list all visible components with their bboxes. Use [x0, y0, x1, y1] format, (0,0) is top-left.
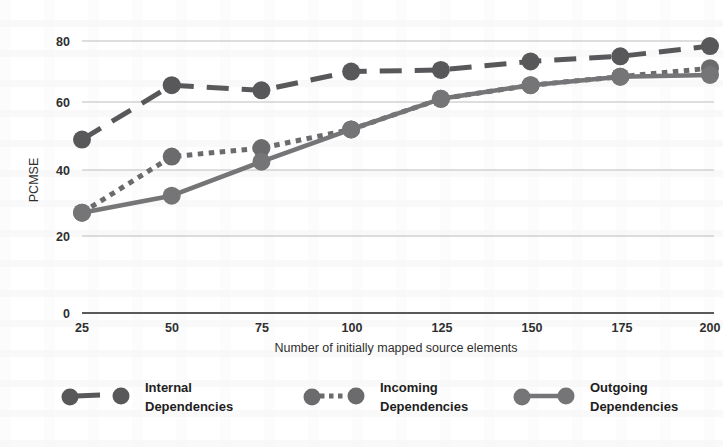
legend-label-outgoing-line1: Outgoing [590, 380, 648, 395]
y-tick-0: 0 [63, 307, 70, 321]
data-point[interactable] [432, 61, 450, 79]
data-point[interactable] [342, 120, 360, 138]
legend-label-outgoing-line2: Dependencies [590, 399, 678, 414]
y-axis-tick-labels: 80 60 40 20 0 [56, 35, 70, 321]
legend-label-incoming-line1: Incoming [380, 380, 438, 395]
data-point[interactable] [701, 37, 719, 55]
y-tick-60: 60 [56, 96, 70, 110]
data-point[interactable] [252, 153, 270, 171]
x-axis-title: Number of initially mapped source elemen… [274, 341, 517, 355]
y-tick-20: 20 [56, 230, 70, 244]
x-tick-25: 25 [75, 321, 89, 335]
data-series-layer [73, 37, 719, 222]
legend-swatch-dashed [62, 388, 130, 406]
x-tick-150: 150 [522, 321, 543, 335]
x-tick-200: 200 [700, 321, 721, 335]
data-point[interactable] [163, 76, 181, 94]
y-tick-80: 80 [56, 35, 70, 49]
data-point[interactable] [73, 131, 91, 149]
data-point[interactable] [342, 63, 360, 81]
legend-label-incoming-line2: Dependencies [380, 399, 468, 414]
legend-item-incoming-dependencies[interactable]: Incoming Dependencies [304, 380, 469, 414]
chart-legend: Internal Dependencies Incoming Dependenc… [62, 380, 679, 414]
x-tick-75: 75 [255, 321, 269, 335]
data-point[interactable] [522, 52, 540, 70]
legend-label-internal-line1: Internal [145, 380, 192, 395]
x-tick-125: 125 [432, 321, 453, 335]
legend-label-internal-line2: Dependencies [145, 399, 233, 414]
data-point[interactable] [163, 148, 181, 166]
series-internal-dependencies [73, 37, 719, 149]
data-point[interactable] [522, 76, 540, 94]
x-axis-tick-labels: 25 50 75 100 125 150 175 200 [75, 321, 720, 335]
data-point[interactable] [701, 66, 719, 84]
data-point[interactable] [163, 187, 181, 205]
data-point[interactable] [611, 47, 629, 65]
legend-swatch-dotted [304, 388, 365, 406]
data-point[interactable] [73, 204, 91, 222]
legend-item-internal-dependencies[interactable]: Internal Dependencies [62, 380, 234, 414]
y-axis-title: PCMSE [27, 158, 41, 202]
data-point[interactable] [252, 81, 270, 99]
x-tick-50: 50 [165, 321, 179, 335]
legend-swatch-solid [514, 388, 575, 406]
y-tick-40: 40 [56, 164, 70, 178]
x-tick-175: 175 [612, 321, 633, 335]
chart-plot-area: 80 60 40 20 0 PCMSE 25 50 75 100 125 150… [0, 0, 723, 447]
data-point[interactable] [432, 90, 450, 108]
pcmse-line-chart: 80 60 40 20 0 PCMSE 25 50 75 100 125 150… [0, 0, 723, 447]
x-tick-100: 100 [342, 321, 363, 335]
data-point[interactable] [611, 68, 629, 86]
legend-item-outgoing-dependencies[interactable]: Outgoing Dependencies [514, 380, 679, 414]
